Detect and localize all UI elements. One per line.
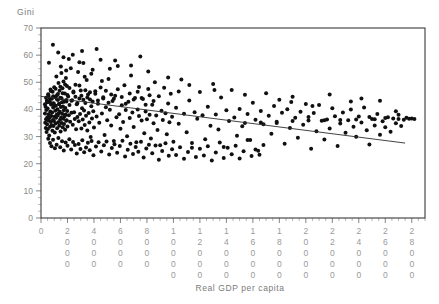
x-tick-label-digit: 2 xyxy=(409,226,414,236)
data-point xyxy=(104,105,108,109)
data-point xyxy=(118,127,122,131)
data-point xyxy=(378,133,382,137)
data-point xyxy=(293,116,297,120)
data-point xyxy=(394,109,398,113)
data-point xyxy=(105,118,109,122)
data-point xyxy=(187,98,191,102)
data-point xyxy=(238,157,242,161)
data-point xyxy=(52,104,56,108)
data-point xyxy=(359,120,363,124)
y-tick-label: 60 xyxy=(24,50,34,60)
data-point xyxy=(187,83,191,87)
y-tick-label: 30 xyxy=(24,132,34,142)
data-point xyxy=(65,125,69,129)
x-tick-label-digit: 0 xyxy=(383,248,388,258)
x-tick-label-digit: 2 xyxy=(330,226,335,236)
data-point xyxy=(62,148,66,152)
x-tick-label-digit: 1 xyxy=(171,226,176,236)
data-point xyxy=(121,120,125,124)
x-tick-label-digit: 0 xyxy=(39,226,44,236)
data-point xyxy=(179,78,183,82)
data-point xyxy=(77,60,81,64)
x-tick-label-digit: 2 xyxy=(356,226,361,236)
data-point xyxy=(142,155,146,159)
data-point xyxy=(56,136,60,140)
y-tick-label: 50 xyxy=(24,77,34,87)
data-point xyxy=(399,124,403,128)
data-point xyxy=(211,82,215,86)
data-point xyxy=(216,128,220,132)
data-point xyxy=(243,93,247,97)
data-point xyxy=(49,144,53,148)
data-point xyxy=(206,144,210,148)
data-point xyxy=(68,120,72,124)
data-point xyxy=(63,82,67,86)
x-tick-label-digit: 0 xyxy=(277,248,282,258)
x-tick-label-digit: 0 xyxy=(330,270,335,280)
data-point xyxy=(214,151,218,155)
data-point xyxy=(202,154,206,158)
x-tick-label-digit: 0 xyxy=(145,259,150,269)
x-tick-label-digit: 0 xyxy=(65,248,70,258)
data-point xyxy=(193,110,197,114)
data-point xyxy=(89,72,93,76)
data-point xyxy=(43,112,47,116)
data-point xyxy=(67,103,71,107)
x-tick-label-digit: 0 xyxy=(277,259,282,269)
data-point xyxy=(114,115,118,119)
data-point xyxy=(126,148,130,152)
data-point xyxy=(170,115,174,119)
data-point xyxy=(136,90,140,94)
data-point xyxy=(145,117,149,121)
data-point xyxy=(156,128,160,132)
x-tick-label-digit: 0 xyxy=(303,270,308,280)
data-point xyxy=(53,146,57,150)
data-point xyxy=(195,117,199,121)
data-point xyxy=(336,144,340,148)
data-point xyxy=(55,143,59,147)
data-point xyxy=(306,119,310,123)
data-point xyxy=(99,150,103,154)
data-point xyxy=(58,85,62,89)
x-tick-label-digit: 0 xyxy=(409,259,414,269)
data-point xyxy=(67,137,71,141)
data-point xyxy=(124,108,128,112)
data-point xyxy=(78,147,82,151)
data-point xyxy=(77,142,81,146)
data-point xyxy=(107,152,111,156)
data-point xyxy=(81,117,85,121)
data-point xyxy=(338,122,342,126)
data-point xyxy=(58,145,62,149)
data-point xyxy=(333,114,337,118)
data-point xyxy=(60,139,64,143)
data-point xyxy=(73,83,77,87)
data-point xyxy=(67,86,71,90)
data-point xyxy=(103,133,107,137)
data-point xyxy=(85,95,89,99)
data-point xyxy=(47,61,51,65)
x-tick-label-digit: 0 xyxy=(303,237,308,247)
data-point xyxy=(149,136,153,140)
data-point xyxy=(56,92,60,96)
x-tick-label-digit: 0 xyxy=(250,248,255,258)
data-point xyxy=(144,147,148,151)
data-point xyxy=(148,113,152,117)
data-point xyxy=(64,69,68,73)
data-point xyxy=(349,100,353,104)
data-point xyxy=(257,153,261,157)
data-point xyxy=(357,114,361,118)
data-point xyxy=(90,139,94,143)
data-point xyxy=(97,140,101,144)
data-point xyxy=(144,103,148,107)
data-point xyxy=(88,148,92,152)
data-point xyxy=(383,125,387,129)
data-point xyxy=(138,55,142,59)
data-point xyxy=(95,114,99,118)
data-point xyxy=(95,47,99,51)
data-point xyxy=(115,151,119,155)
data-point xyxy=(328,93,332,97)
x-tick-label-digit: 0 xyxy=(356,270,361,280)
data-point xyxy=(317,103,321,107)
data-point xyxy=(157,158,161,162)
data-point xyxy=(116,64,120,68)
